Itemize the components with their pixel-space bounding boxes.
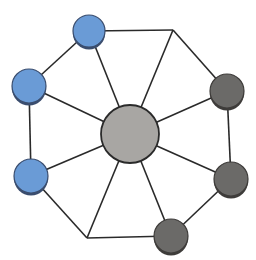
node-face — [214, 162, 248, 196]
node-face — [73, 15, 105, 47]
node-face — [14, 159, 48, 193]
dark-node-right-lower — [214, 162, 248, 199]
network-diagram — [0, 0, 256, 260]
dark-node-bottom — [154, 219, 188, 256]
blue-node-left-lower — [14, 159, 48, 196]
blue-node-left-upper — [12, 69, 46, 106]
node-face — [154, 219, 188, 253]
blue-node-top — [73, 15, 105, 50]
nodes — [12, 15, 248, 256]
node-face — [210, 74, 244, 108]
node-face — [12, 69, 46, 103]
hub-node — [101, 105, 159, 163]
dark-node-right-upper — [210, 74, 244, 111]
